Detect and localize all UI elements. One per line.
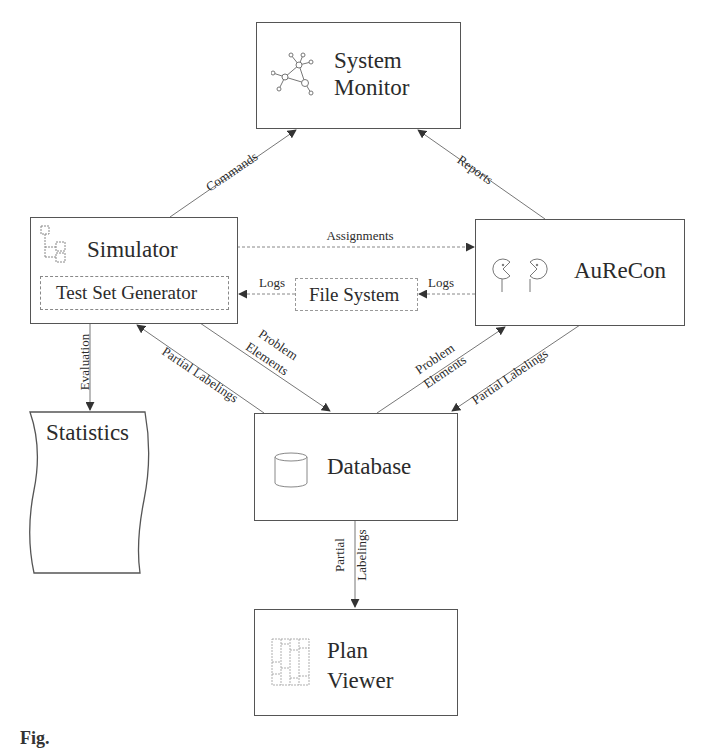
test-set-generator-label: Test Set Generator [56, 282, 197, 304]
edge-label-partial-bottom-1: Partial [333, 530, 347, 580]
file-system-node[interactable]: File System [295, 278, 418, 311]
tree-hierarchy-icon [40, 225, 70, 265]
system-monitor-node[interactable]: System Monitor [256, 22, 461, 129]
network-graph-icon [271, 51, 317, 97]
test-set-generator-component[interactable]: Test Set Generator [40, 276, 229, 310]
aurecon-node[interactable]: AuReCon [475, 219, 685, 326]
edge-label-evaluation: Evaluation [78, 322, 92, 402]
database-cylinder-icon [273, 451, 309, 489]
figure-caption-fragment: Fig. [20, 728, 50, 749]
plan-viewer-label-line1: Plan [327, 638, 368, 664]
plan-viewer-label-line2: Viewer [327, 668, 393, 694]
aurecon-label: AuReCon [574, 258, 666, 284]
edge-label-logs-right: Logs [428, 276, 454, 290]
statistics-label: Statistics [46, 420, 129, 446]
simulator-node[interactable]: Simulator Test Set Generator [30, 217, 238, 324]
plan-grid-icon [271, 638, 311, 686]
file-system-label: File System [309, 284, 399, 306]
plan-viewer-node[interactable]: Plan Viewer [254, 609, 458, 716]
database-node[interactable]: Database [254, 413, 458, 521]
system-monitor-label-line1: System [334, 48, 402, 74]
pacman-agents-icon [490, 256, 552, 300]
database-label: Database [327, 454, 411, 480]
edge-label-logs-left: Logs [259, 276, 285, 290]
simulator-label: Simulator [87, 237, 178, 263]
edge-label-assignments: Assignments [310, 229, 410, 243]
system-monitor-label-line2: Monitor [334, 75, 409, 101]
edge-label-labelings-bottom-2: Labelings [355, 525, 369, 585]
